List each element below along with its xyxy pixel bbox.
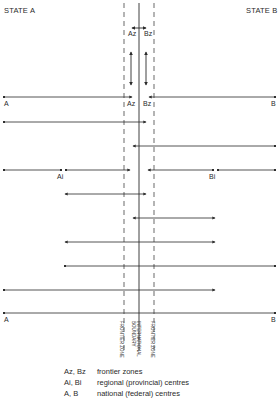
frontier-zone-left-label: FRONTIER ZONE [119,321,124,358]
legend-key: Az, Bz [64,366,97,377]
a-label-row1: A [4,100,9,107]
international-boundary-label-2: BOUNDARY [131,321,136,346]
legend-key: A, B [64,388,97,399]
legend-key: Ai, Bi [64,377,97,388]
b-label-bottom: B [271,316,276,323]
ai-label: Ai [57,173,64,180]
bi-label: Bi [209,173,216,180]
frontier-zone-right-label: FRONTIER ZONE [150,321,155,358]
legend-item: A, B national (federal) centres [64,388,189,399]
az-top-label: Az [128,30,137,37]
bz-label-row1: Bz [143,100,152,107]
legend-desc: regional (provincial) centres [97,377,189,388]
legend-item: Az, Bz frontier zones [64,366,189,377]
a-label-bottom: A [4,316,9,323]
international-boundary-label-1: INTERNATIONAL [136,321,141,357]
b-label-row1: B [271,100,276,107]
legend-desc: frontier zones [97,366,142,377]
legend-item: Ai, Bi regional (provincial) centres [64,377,189,388]
legend: Az, Bz frontier zones Ai, Bi regional (p… [64,366,189,399]
az-label-row1: Az [127,100,136,107]
bz-top-label: Bz [144,30,153,37]
legend-desc: national (federal) centres [97,388,180,399]
